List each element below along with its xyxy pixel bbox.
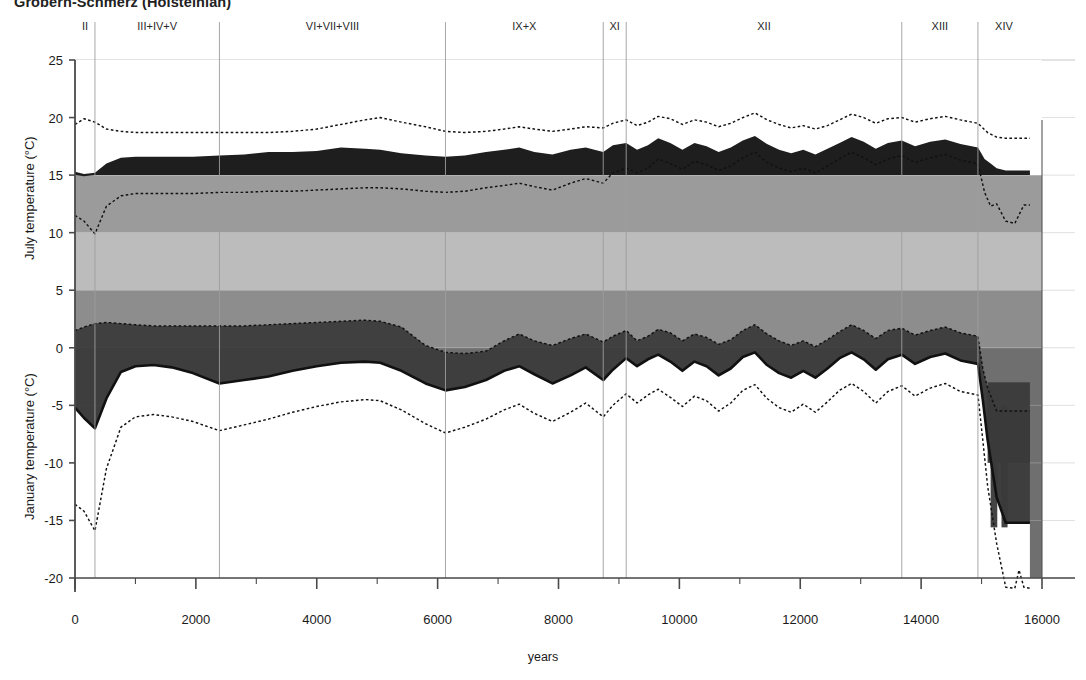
- zone-label-XIII: XIII: [932, 20, 949, 32]
- x-tick-label-12000: 12000: [782, 612, 818, 627]
- x-tick-label-16000: 16000: [1024, 612, 1060, 627]
- cold-block: [988, 382, 1030, 463]
- x-tick-label-6000: 6000: [423, 612, 452, 627]
- zone-label-XI: XI: [610, 20, 620, 32]
- x-tick-label-4000: 4000: [302, 612, 331, 627]
- y-tick-label-5: 5: [3, 283, 63, 298]
- x-axis-title: years: [528, 650, 559, 664]
- chart-plot-area: [0, 0, 1086, 680]
- y-tick-label-20: 20: [3, 110, 63, 125]
- zone-label-IX+X: IX+X: [512, 20, 536, 32]
- x-tick-label-0: 0: [71, 612, 78, 627]
- january-below-white: [75, 352, 1030, 578]
- zone-label-XIV: XIV: [995, 20, 1013, 32]
- y-axis-title-january: January temperature (°C): [22, 373, 37, 520]
- x-tick-label-14000: 14000: [903, 612, 939, 627]
- y-tick-label-0: 0: [3, 340, 63, 355]
- x-tick-label-2000: 2000: [181, 612, 210, 627]
- zone-label-II: II: [82, 20, 88, 32]
- chart-figure: Gröbern-Schmerz (Holsteinian) 2520151050…: [0, 0, 1086, 680]
- y-tick-label-25: 25: [3, 53, 63, 68]
- y-tick-label--20: -20: [3, 571, 63, 586]
- zone-label-VI+VII+VIII: VI+VII+VIII: [306, 20, 359, 32]
- y-axis-title-july: July temperature (°C): [22, 136, 37, 260]
- reference-band-1: [75, 233, 1042, 291]
- x-tick-label-8000: 8000: [544, 612, 573, 627]
- zone-label-XII: XII: [757, 20, 770, 32]
- x-tick-label-10000: 10000: [661, 612, 697, 627]
- reference-band-0: [75, 175, 1042, 233]
- zone-label-III+IV+V: III+IV+V: [137, 20, 177, 32]
- january-white-region: [75, 352, 1030, 578]
- x-ticks: [75, 578, 1042, 589]
